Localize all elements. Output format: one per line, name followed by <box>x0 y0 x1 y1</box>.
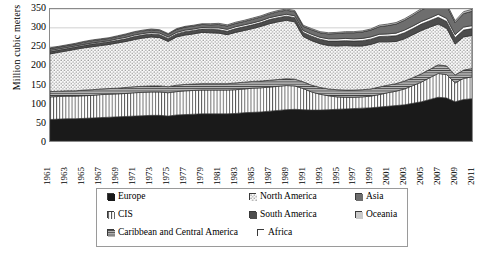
plot-area <box>49 8 473 142</box>
legend-item[interactable]: CIS <box>107 210 133 220</box>
x-tick-label: 2001 <box>382 167 391 185</box>
x-tick-label: 1997 <box>348 167 357 185</box>
legend-item[interactable]: Europe <box>107 192 145 202</box>
x-tick-label: 1977 <box>179 167 188 185</box>
x-tick-label: 1965 <box>77 167 86 185</box>
legend-item[interactable]: Oceania <box>355 210 397 220</box>
x-tick-label: 1991 <box>298 167 307 185</box>
chart-legend: Europe North America Asia <box>96 188 408 247</box>
x-tick-label: 2007 <box>433 167 442 185</box>
legend-swatch-icon <box>249 193 256 200</box>
x-tick-label: 1975 <box>162 167 171 185</box>
x-tick-label: 2003 <box>399 167 408 185</box>
x-tick-label: 1973 <box>145 167 154 185</box>
x-tick-label: 1963 <box>60 167 69 185</box>
x-tick-label: 1999 <box>365 167 374 185</box>
stacked-area-svg <box>50 9 472 141</box>
x-tick-label: 1981 <box>213 167 222 185</box>
y-tick-label: 350 <box>16 3 46 13</box>
x-tick-label: 1985 <box>247 167 256 185</box>
y-tick-label: 200 <box>16 60 46 70</box>
legend-swatch-icon <box>355 211 362 218</box>
x-axis-tick-labels: 1961196319651967196919711973197519771979… <box>49 143 473 185</box>
legend-swatch-icon <box>249 211 256 218</box>
x-tick-label: 1989 <box>281 167 290 185</box>
x-tick-label: 1979 <box>196 167 205 185</box>
y-tick-label: 0 <box>16 137 46 147</box>
x-tick-label: 1995 <box>332 167 341 185</box>
legend-label: Oceania <box>366 210 397 220</box>
x-tick-label: 1969 <box>111 167 120 185</box>
legend-label: Caribbean and Central America <box>118 228 238 238</box>
x-tick-label: 1971 <box>128 167 137 185</box>
legend-item[interactable]: Caribbean and Central America <box>107 228 238 238</box>
x-tick-label: 2011 <box>467 167 476 185</box>
legend-swatch-icon <box>107 229 114 236</box>
y-tick-label: 300 <box>16 22 46 32</box>
legend-item[interactable]: Asia <box>355 192 383 202</box>
legend-swatch-icon <box>107 211 114 218</box>
legend-label: South America <box>260 210 317 220</box>
legend-item[interactable]: South America <box>249 210 317 220</box>
x-tick-label: 1967 <box>94 167 103 185</box>
chart-figure: Million cubic meters 0501001502002503003… <box>0 0 483 255</box>
x-tick-label: 1993 <box>315 167 324 185</box>
legend-label: Africa <box>268 228 292 238</box>
legend-item[interactable]: Africa <box>257 228 292 238</box>
legend-swatch-icon <box>257 229 264 236</box>
legend-label: Asia <box>366 192 383 202</box>
y-tick-label: 50 <box>16 118 46 128</box>
x-tick-label: 1961 <box>43 167 52 185</box>
legend-label: North America <box>260 192 317 202</box>
x-tick-label: 2009 <box>450 167 459 185</box>
legend-label: Europe <box>118 192 145 202</box>
x-tick-label: 1987 <box>264 167 273 185</box>
y-axis-tick-labels: 050100150200250300350 <box>16 8 46 142</box>
series-areas <box>50 9 472 141</box>
legend-swatch-icon <box>355 193 362 200</box>
y-tick-label: 150 <box>16 80 46 90</box>
x-tick-label: 1983 <box>230 167 239 185</box>
y-tick-label: 250 <box>16 41 46 51</box>
legend-label: CIS <box>118 210 133 220</box>
x-tick-label: 2005 <box>416 167 425 185</box>
y-tick-label: 100 <box>16 99 46 109</box>
legend-swatch-icon <box>107 193 114 200</box>
legend-item[interactable]: North America <box>249 192 317 202</box>
